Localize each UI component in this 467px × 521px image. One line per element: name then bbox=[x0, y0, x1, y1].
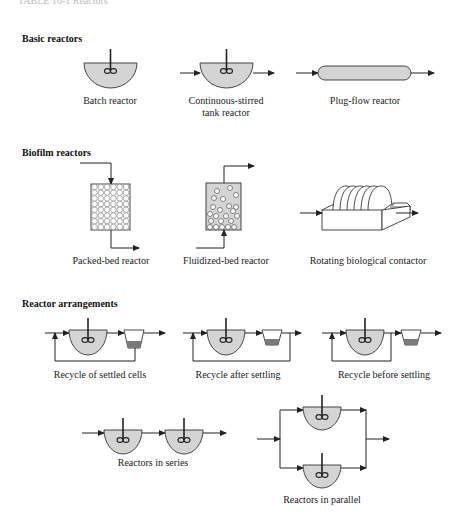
packed-bed-label: Packed-bed reactor bbox=[73, 255, 151, 266]
packed-bed-reactor-icon bbox=[80, 163, 139, 248]
section-title-arrangements: Reactor arrangements bbox=[22, 298, 118, 309]
cstr-label-line2: tank reactor bbox=[202, 107, 250, 118]
recycle-settled-cells-icon bbox=[45, 318, 165, 361]
reactors-in-parallel-icon bbox=[257, 395, 389, 488]
reactors-in-series-icon bbox=[82, 418, 226, 454]
batch-reactor-icon bbox=[84, 49, 137, 88]
recycle-after-settling-icon bbox=[183, 318, 301, 361]
fluidized-bed-label: Fluidized-bed reactor bbox=[183, 255, 269, 266]
cstr-icon bbox=[180, 49, 274, 88]
fluidized-bed-reactor-icon bbox=[196, 166, 254, 248]
plug-flow-reactor-icon bbox=[296, 66, 434, 80]
rbc-label: Rotating biological contactor bbox=[310, 255, 427, 266]
plug-flow-label: Plug-flow reactor bbox=[330, 95, 401, 106]
reactors-in-parallel-label: Reactors in parallel bbox=[283, 494, 361, 505]
cstr-label-line1: Continuous-stirred bbox=[189, 95, 264, 106]
section-title-basic: Basic reactors bbox=[22, 33, 82, 44]
recycle-before-settling-icon bbox=[322, 318, 441, 361]
cut-header-text: TABLE 10-1 Reactors bbox=[18, 0, 108, 6]
recycle-settled-cells-label: Recycle of settled cells bbox=[54, 369, 147, 380]
reactors-in-series-label: Reactors in series bbox=[118, 457, 189, 468]
batch-reactor-label: Batch reactor bbox=[83, 95, 137, 106]
reactor-diagram: TABLE 10-1 Reactors Basic reactors Batch… bbox=[0, 0, 467, 521]
recycle-before-settling-label: Recycle before settling bbox=[338, 369, 430, 380]
rbc-icon bbox=[322, 186, 410, 230]
recycle-after-settling-label: Recycle after settling bbox=[196, 369, 281, 380]
section-title-biofilm: Biofilm reactors bbox=[22, 147, 91, 158]
